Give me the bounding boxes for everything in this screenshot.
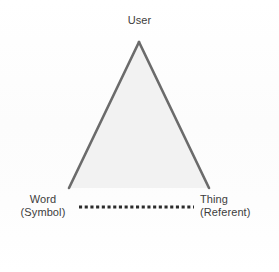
node-label-word: Word (Symbol) xyxy=(10,193,76,218)
node-label-word-secondary: (Symbol) xyxy=(10,206,76,219)
node-label-thing: Thing (Referent) xyxy=(200,193,276,218)
meaning-triangle-diagram: User Word (Symbol) Thing (Referent) xyxy=(0,0,279,272)
node-label-thing-primary: Thing xyxy=(200,193,276,206)
node-label-word-primary: Word xyxy=(10,193,76,206)
triangle-graphic xyxy=(0,0,279,272)
triangle-fill xyxy=(69,42,209,188)
node-label-thing-secondary: (Referent) xyxy=(200,206,276,219)
node-label-user-text: User xyxy=(0,14,279,27)
node-label-user: User xyxy=(0,14,279,27)
